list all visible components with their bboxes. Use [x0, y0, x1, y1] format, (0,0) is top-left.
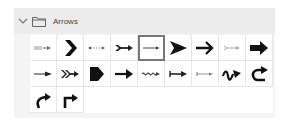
squiggle-arrow-icon [221, 65, 243, 83]
curved-up-arrow-icon [32, 91, 54, 109]
u-turn-arrow-icon [248, 65, 270, 83]
arrow-bar-tail[interactable] [165, 61, 192, 87]
arrow-notched-triangle[interactable] [165, 35, 192, 61]
arrow-double-feather[interactable] [57, 61, 84, 87]
arrow-open-head-bold[interactable] [192, 35, 219, 61]
arrow-pentagon[interactable] [84, 61, 111, 87]
striped-tail-arrow-icon [32, 39, 54, 57]
group-title: Arrows [53, 17, 78, 26]
chevron-bold-arrow-icon [59, 39, 81, 57]
arrow-curved-up[interactable] [30, 87, 57, 113]
arrow-chevron-bold[interactable] [57, 35, 84, 61]
light-gray-arrow-icon [221, 39, 243, 57]
arrow-u-turn[interactable] [246, 61, 273, 87]
arrow-right-angle[interactable] [57, 87, 84, 113]
arrow-block[interactable] [246, 35, 273, 61]
notched-triangle-arrow-icon [167, 39, 189, 57]
arrow-dotted-line[interactable] [84, 35, 111, 61]
folder-icon [32, 16, 46, 27]
arrow-tapered[interactable] [30, 61, 57, 87]
block-arrow-icon [248, 39, 270, 57]
arrow-light-gray[interactable] [219, 35, 246, 61]
double-feather-arrow-icon [59, 65, 81, 83]
bold-line-arrow-icon [113, 65, 135, 83]
arrow-bold-line[interactable] [111, 61, 138, 87]
arrow-wavy[interactable] [138, 61, 165, 87]
arrow-squiggle[interactable] [219, 61, 246, 87]
arrow-thin-bar-tail[interactable] [192, 61, 219, 87]
thin-line-arrow-icon [140, 39, 162, 57]
pentagon-arrow-icon [86, 65, 108, 83]
arrows-panel: Arrows [14, 8, 275, 118]
open-head-bold-arrow-icon [194, 39, 216, 57]
arrow-thin-line[interactable] [138, 35, 165, 61]
arrow-feathered[interactable] [111, 35, 138, 61]
tapered-arrow-icon [32, 65, 54, 83]
thin-bar-tail-arrow-icon [194, 65, 216, 83]
dotted-line-arrow-icon [86, 39, 108, 57]
feathered-arrow-icon [113, 39, 135, 57]
chevron-down-icon[interactable] [17, 15, 29, 27]
bar-tail-arrow-icon [167, 65, 189, 83]
arrow-grid [30, 35, 273, 113]
wavy-arrow-icon [140, 65, 162, 83]
right-angle-arrow-icon [59, 91, 81, 109]
arrow-striped-tail[interactable] [30, 35, 57, 61]
group-header[interactable]: Arrows [14, 8, 275, 34]
